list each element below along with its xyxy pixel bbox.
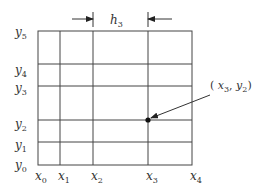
svg-text:y1: y1	[14, 138, 27, 154]
svg-text:x0: x0	[35, 169, 47, 185]
point-label: ( x3, y2)	[210, 79, 252, 94]
svg-text:y4: y4	[14, 63, 27, 79]
h3-label: h3	[110, 13, 123, 29]
svg-text:x4: x4	[190, 169, 202, 185]
grid-border	[38, 31, 192, 165]
y-axis-labels: y5 y4 y3 y2 y1 y0	[14, 25, 27, 174]
grid-lines	[38, 31, 192, 165]
svg-text:x3: x3	[146, 169, 158, 185]
svg-text:y2: y2	[14, 117, 27, 133]
svg-text:y5: y5	[14, 25, 27, 41]
x-axis-labels: x0 x1 x2 x3 x4	[35, 169, 202, 185]
callout-arrow-icon	[151, 95, 210, 118]
svg-text:x1: x1	[58, 169, 70, 185]
svg-text:y0: y0	[14, 158, 27, 174]
grid-point-dot-icon	[145, 117, 150, 122]
grid-diagram: h3 y5 y4 y3 y2 y1 y0 x0 x1 x2 x3 x4 ( x3…	[0, 0, 258, 193]
svg-text:x2: x2	[91, 169, 103, 185]
svg-text:y3: y3	[14, 81, 27, 97]
